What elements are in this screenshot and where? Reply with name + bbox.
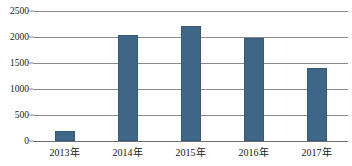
bar (244, 38, 264, 141)
x-axis-tick-label: 2016年 (239, 144, 269, 159)
bar (307, 68, 327, 141)
x-axis-tick-label: 2013年 (50, 144, 80, 159)
y-axis-tick-label: 2000 (10, 32, 29, 42)
x-axis-tick-label: 2014年 (113, 144, 143, 159)
axis-baseline (33, 141, 348, 142)
x-axis: 2013年2014年2015年2016年2017年 (33, 143, 348, 163)
bar-chart: 05001000150020002500 2013年2014年2015年2016… (0, 0, 352, 166)
x-axis-tick-label: 2015年 (176, 144, 206, 159)
bar (118, 35, 138, 141)
bar (55, 131, 75, 141)
y-axis-tick-label: 2500 (10, 6, 29, 16)
y-axis-tick-label: 1000 (10, 84, 29, 94)
y-axis: 05001000150020002500 (0, 0, 29, 166)
y-axis-tick-label: 500 (15, 110, 29, 120)
y-axis-tick-label: 1500 (10, 58, 29, 68)
bar (181, 26, 201, 141)
x-axis-tick-label: 2017年 (302, 144, 332, 159)
plot-area (33, 11, 348, 141)
gridline (33, 11, 348, 12)
